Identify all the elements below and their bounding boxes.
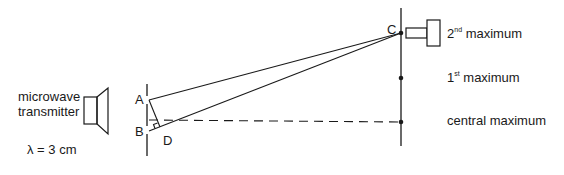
transmitter-label-line1: microwave [18, 89, 80, 104]
first-maximum-label: 1st maximum [447, 70, 520, 85]
wavelength-label: λ = 3 cm [27, 142, 77, 157]
path-AC [149, 33, 401, 100]
central-maximum-label: central maximum [447, 113, 546, 128]
second-maximum-label: 2nd maximum [447, 26, 522, 41]
point-B-label: B [135, 124, 144, 139]
detection-screen [399, 8, 404, 146]
line-AD [149, 100, 160, 127]
path-lines [149, 33, 401, 131]
point-C-label: C [387, 22, 396, 37]
center-dashed-line [149, 120, 401, 122]
transmitter-label-line2: transmitter [18, 104, 79, 119]
path-BC [149, 33, 401, 131]
point-C-dot [399, 31, 404, 36]
central-max-dot [399, 120, 404, 125]
first-max-dot [399, 76, 404, 81]
transmitter-icon [84, 88, 108, 134]
point-D-label: D [163, 133, 172, 148]
point-A-label: A [135, 92, 144, 107]
receiver-icon [406, 20, 440, 46]
